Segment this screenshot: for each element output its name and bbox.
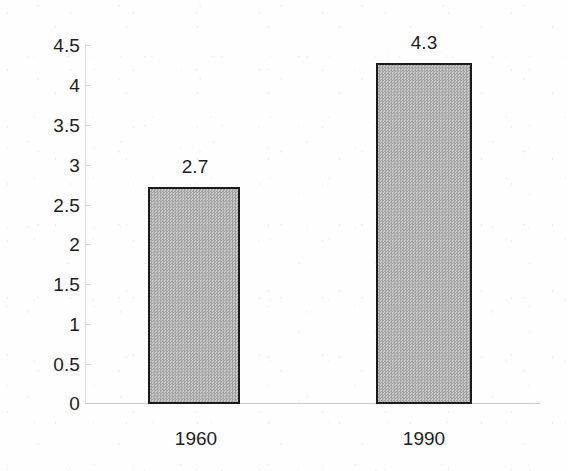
- y-axis-line: [85, 44, 86, 404]
- y-tick-label: 0.5: [6, 355, 80, 374]
- bar-1990[interactable]: [376, 63, 472, 404]
- bar-chart: 4.5 4 3.5 3 2.5 2 1.5 1: [0, 0, 568, 471]
- y-tick-label: 0: [6, 394, 80, 413]
- category-label-1990: 1990: [403, 429, 445, 448]
- y-tick-label: 1: [6, 315, 80, 334]
- y-tick-label: 3.5: [6, 116, 80, 135]
- y-tick-label: 1.5: [6, 275, 80, 294]
- category-label-1960: 1960: [175, 429, 217, 448]
- bar-value-label-1990: 4.3: [411, 33, 437, 52]
- y-tick-label: 2.5: [6, 196, 80, 215]
- bar-value-label-1960: 2.7: [182, 157, 208, 176]
- bar-1960[interactable]: [148, 187, 240, 404]
- plot-area: 4.5 4 3.5 3 2.5 2 1.5 1: [0, 0, 568, 471]
- y-tick-label: 3: [6, 156, 80, 175]
- y-tick-label: 4.5: [6, 36, 80, 55]
- y-tick-label: 4: [6, 76, 80, 95]
- y-tick-label: 2: [6, 235, 80, 254]
